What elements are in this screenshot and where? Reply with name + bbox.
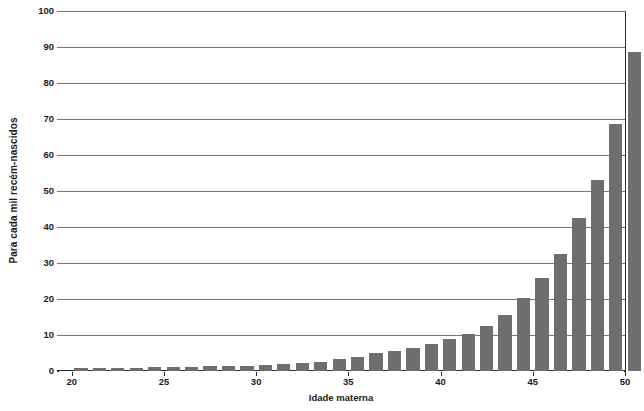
bar	[351, 357, 364, 371]
x-tick-label: 25	[159, 377, 170, 387]
bar	[259, 365, 272, 371]
bar	[425, 344, 438, 371]
plot-area	[57, 11, 625, 371]
bar	[462, 334, 475, 371]
bar	[111, 368, 124, 371]
y-tick-label: 70	[26, 114, 54, 124]
bar	[74, 368, 87, 371]
bar-chart: Para cada mil recém-nascidos 01020304050…	[0, 0, 644, 411]
y-tick-label: 60	[26, 150, 54, 160]
bar	[628, 52, 641, 371]
x-tick-label: 30	[251, 377, 262, 387]
bar	[517, 298, 530, 371]
y-axis-title-text: Para cada mil recém-nascidos	[8, 117, 19, 263]
bar	[591, 180, 604, 371]
x-tick-label: 45	[527, 377, 538, 387]
bar	[406, 348, 419, 371]
bar	[443, 339, 456, 371]
bar	[554, 254, 567, 371]
y-tick-label: 90	[26, 42, 54, 52]
bar	[167, 367, 180, 371]
bar	[93, 368, 106, 371]
x-tick-label: 35	[343, 377, 354, 387]
x-tick-label: 20	[66, 377, 77, 387]
bar	[572, 218, 585, 371]
bar	[130, 368, 143, 371]
y-tick-label: 0	[26, 366, 54, 376]
bar	[296, 363, 309, 371]
bar	[222, 366, 235, 371]
y-tick-label: 80	[26, 78, 54, 88]
bar	[314, 362, 327, 371]
y-axis-title: Para cada mil recém-nascidos	[0, 0, 26, 380]
y-tick-label: 50	[26, 186, 54, 196]
bar	[498, 315, 511, 371]
x-axis-title: Idade materna	[57, 392, 625, 403]
y-tick-label: 30	[26, 258, 54, 268]
bar	[388, 351, 401, 371]
bar	[369, 353, 382, 371]
bar	[148, 367, 161, 371]
x-axis-tick-labels: 20253035404550	[57, 372, 625, 394]
bar	[480, 326, 493, 371]
bar	[203, 366, 216, 371]
y-tick-label: 40	[26, 222, 54, 232]
bar	[609, 124, 622, 371]
x-tick-label: 50	[620, 377, 631, 387]
bar	[185, 367, 198, 371]
bar	[535, 278, 548, 371]
y-tick-label: 100	[26, 6, 54, 16]
x-tick-label: 40	[435, 377, 446, 387]
y-tick-label: 20	[26, 294, 54, 304]
y-axis-tick-labels: 0102030405060708090100	[26, 0, 54, 411]
bar	[240, 366, 253, 371]
bar	[333, 359, 346, 371]
bar	[277, 364, 290, 371]
y-tick-label: 10	[26, 330, 54, 340]
bars-layer	[57, 11, 625, 371]
